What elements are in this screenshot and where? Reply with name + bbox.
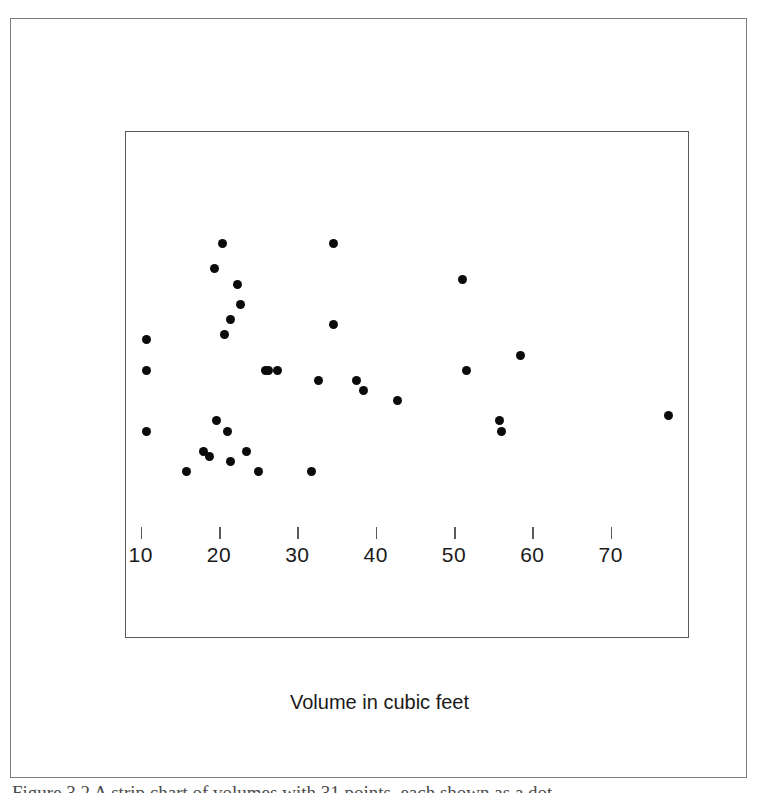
plot-area bbox=[125, 131, 689, 638]
data-point bbox=[352, 376, 361, 385]
data-point bbox=[233, 280, 242, 289]
data-point bbox=[261, 366, 270, 375]
data-point bbox=[254, 467, 263, 476]
data-point bbox=[307, 467, 316, 476]
data-point bbox=[359, 386, 368, 395]
data-point bbox=[495, 416, 504, 425]
data-point bbox=[462, 366, 471, 375]
data-point bbox=[218, 239, 227, 248]
data-point bbox=[226, 315, 235, 324]
data-point bbox=[393, 396, 402, 405]
data-point bbox=[182, 467, 191, 476]
data-point bbox=[242, 447, 251, 456]
data-point bbox=[516, 351, 525, 360]
figure-caption: Figure 3.2 A strip chart of volumes with… bbox=[12, 782, 752, 793]
data-point bbox=[236, 300, 245, 309]
figure-frame: 10203040506070 Volume in cubic feet bbox=[10, 18, 747, 778]
data-point bbox=[664, 411, 673, 420]
data-point bbox=[497, 427, 506, 436]
x-axis-title: Volume in cubic feet bbox=[11, 691, 748, 714]
scatter-points-layer bbox=[126, 132, 688, 637]
data-point bbox=[142, 366, 151, 375]
data-point bbox=[458, 275, 467, 284]
data-point bbox=[212, 416, 221, 425]
data-point bbox=[329, 239, 338, 248]
data-point bbox=[220, 330, 229, 339]
data-point bbox=[329, 320, 338, 329]
data-point bbox=[264, 366, 273, 375]
data-point bbox=[142, 427, 151, 436]
data-point bbox=[210, 264, 219, 273]
data-point bbox=[226, 457, 235, 466]
data-point bbox=[273, 366, 282, 375]
data-point bbox=[223, 427, 232, 436]
data-point bbox=[205, 452, 214, 461]
data-point bbox=[142, 335, 151, 344]
data-point bbox=[199, 447, 208, 456]
data-point bbox=[314, 376, 323, 385]
